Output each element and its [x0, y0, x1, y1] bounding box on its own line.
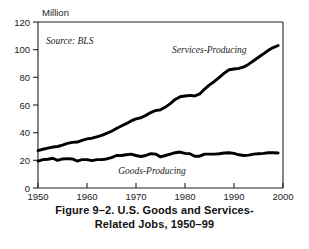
y-tick-label-40: 40 [19, 127, 30, 138]
x-tick-label-1960: 1960 [76, 191, 97, 202]
figure-caption-line-2: Related Jobs, 1950–99 [0, 217, 309, 231]
figure-container: 0 20 40 60 80 100 120 1950 1960 [0, 0, 309, 249]
y-tick-label-100: 100 [14, 44, 30, 55]
x-tick-label-1980: 1980 [174, 191, 195, 202]
y-tick-label-60: 60 [19, 100, 30, 111]
figure-caption: Figure 9–2. U.S. Goods and Services- Rel… [0, 203, 309, 231]
y-tick-label-80: 80 [19, 72, 30, 83]
series-label-goods-producing: Goods-Producing [118, 166, 186, 176]
y-tick-label-120: 120 [14, 17, 30, 28]
figure-caption-line-1: Figure 9–2. U.S. Goods and Services- [0, 203, 309, 217]
source-annotation: Source: BLS [46, 36, 94, 46]
series-label-services-producing: Services-Producing [172, 45, 247, 55]
x-tick-label-2000: 2000 [272, 191, 293, 202]
x-tick-label-1990: 1990 [223, 191, 244, 202]
y-axis-unit-label: Million [42, 7, 69, 18]
x-tick-label-1970: 1970 [125, 191, 146, 202]
y-tick-label-20: 20 [19, 155, 30, 166]
line-chart: 0 20 40 60 80 100 120 1950 1960 [0, 0, 309, 205]
chart-plot-area: 0 20 40 60 80 100 120 1950 1960 [0, 0, 309, 205]
x-tick-label-1950: 1950 [27, 191, 48, 202]
